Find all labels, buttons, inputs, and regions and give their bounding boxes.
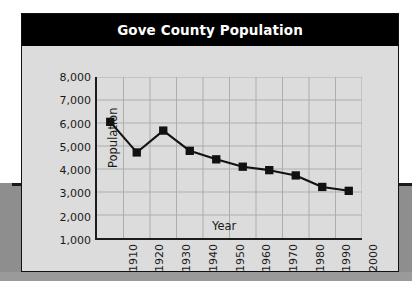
y-axis-tick-label: 7,000 <box>43 94 91 107</box>
x-axis-title: Year <box>212 219 236 233</box>
data-point-marker <box>239 163 247 171</box>
x-axis-tick-label: 1930 <box>180 244 193 272</box>
x-axis-tick-label: 1920 <box>153 244 166 272</box>
chart-title-bar: Gove County Population <box>22 14 398 46</box>
data-point-marker <box>292 171 300 179</box>
chart-figure: Gove County Population 8,0007,0006,0005,… <box>21 13 399 272</box>
x-axis-tick-label: 1940 <box>207 244 220 272</box>
y-axis-tick-label: 1,000 <box>43 234 91 247</box>
page-backdrop-bottom <box>0 272 412 281</box>
data-point-marker <box>318 183 326 191</box>
x-axis-tick-label: 1960 <box>260 244 273 272</box>
data-point-marker <box>159 126 167 134</box>
y-axis-tick-label: 4,000 <box>43 164 91 177</box>
x-axis-tick-label: 1910 <box>127 244 140 272</box>
x-axis-tick-label: 1950 <box>234 244 247 272</box>
plot-area <box>95 77 362 240</box>
chart-body: 8,0007,0006,0005,0004,0003,0002,0001,000… <box>22 46 398 271</box>
x-axis-tick-labels: 1910192019301940195019601970198019902000 <box>95 242 362 272</box>
y-axis-tick-label: 5,000 <box>43 140 91 153</box>
x-axis-tick-label: 2000 <box>367 244 380 272</box>
chart-title: Gove County Population <box>117 22 303 38</box>
y-axis-title: Population <box>106 108 120 168</box>
y-axis-tick-labels: 8,0007,0006,0005,0004,0003,0002,0001,000 <box>38 77 91 240</box>
x-axis-tick-label: 1980 <box>314 244 327 272</box>
y-axis-tick-label: 6,000 <box>43 117 91 130</box>
data-point-marker <box>133 148 141 156</box>
y-axis-tick-label: 3,000 <box>43 187 91 200</box>
y-axis-tick-label: 2,000 <box>43 210 91 223</box>
data-point-marker <box>186 147 194 155</box>
x-axis-tick-label: 1970 <box>287 244 300 272</box>
data-point-marker <box>345 187 353 195</box>
data-point-marker <box>265 166 273 174</box>
data-point-marker <box>212 155 220 163</box>
y-axis-tick-label: 8,000 <box>43 71 91 84</box>
x-axis-tick-label: 1990 <box>340 244 353 272</box>
plot-svg <box>97 77 362 238</box>
